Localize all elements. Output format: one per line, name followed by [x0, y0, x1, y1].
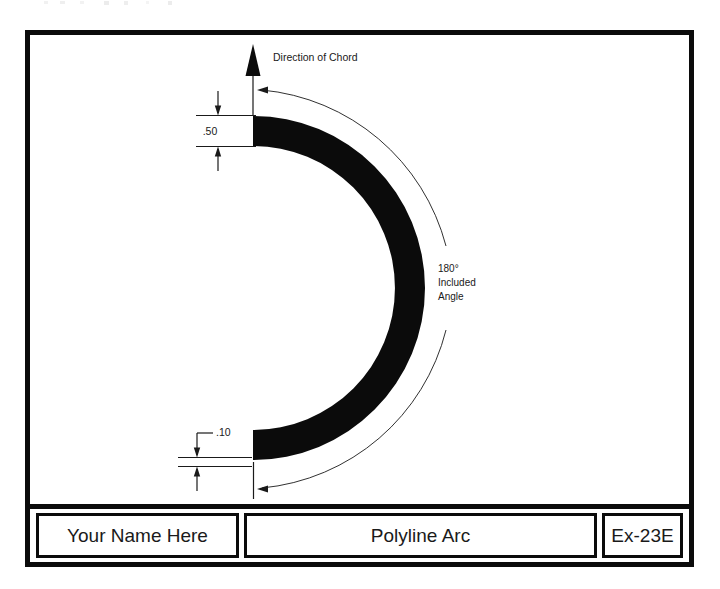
drawing-sheet: .50 Direction of Chord 180° Included Ang… — [0, 0, 720, 589]
included-angle-value: 180° — [438, 263, 459, 274]
title-block-title-value: Polyline Arc — [371, 525, 470, 546]
title-block-exercise-value: Ex-23E — [611, 525, 673, 546]
title-block-name-value: Your Name Here — [67, 525, 208, 546]
page-background — [0, 0, 720, 589]
included-angle-word-angle: Angle — [438, 291, 464, 302]
chord-direction-label: Direction of Chord — [273, 51, 358, 63]
title-block: Your Name Here Polyline Arc Ex-23E — [28, 507, 692, 565]
included-angle-word-included: Included — [438, 277, 476, 288]
dimension-value-050: .50 — [203, 125, 218, 137]
dimension-value-010: .10 — [216, 426, 231, 438]
